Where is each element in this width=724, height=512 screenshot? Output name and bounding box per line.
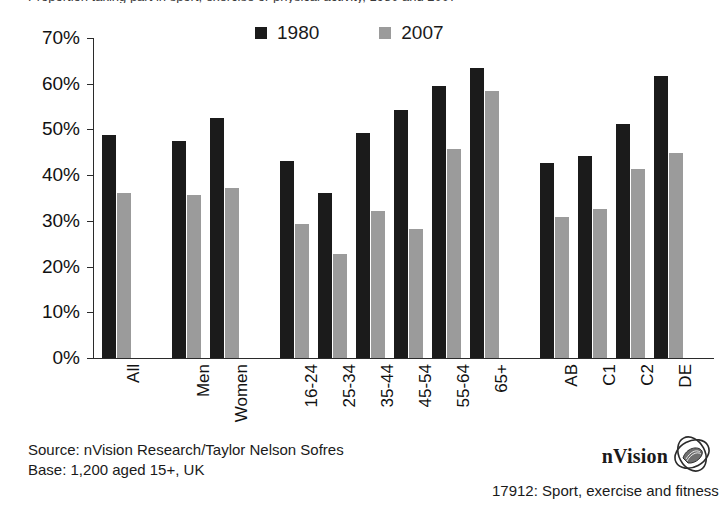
- base-note: Base: 1,200 aged 15+, UK: [28, 460, 344, 480]
- bar-group: [394, 38, 424, 358]
- y-tick-mark: [87, 358, 93, 359]
- x-tick-label: Women: [233, 364, 250, 422]
- bar-group: [616, 38, 646, 358]
- y-tick-label: 0%: [0, 348, 80, 367]
- bar: [578, 156, 592, 359]
- bar: [187, 195, 201, 358]
- y-tick-label: 70%: [0, 28, 80, 47]
- bar: [555, 217, 569, 358]
- bar: [318, 193, 332, 358]
- nvision-ellipse-logo-icon: [672, 434, 712, 478]
- x-tick-label: 65+: [493, 364, 510, 393]
- x-tick-label: 45-54: [417, 364, 434, 407]
- bar: [225, 188, 239, 358]
- bar-group: [318, 38, 348, 358]
- bar: [102, 135, 116, 358]
- source-note: Source: nVision Research/Taylor Nelson S…: [28, 440, 344, 460]
- y-tick-mark: [87, 84, 93, 85]
- bar-group: [356, 38, 386, 358]
- bar: [172, 141, 186, 358]
- bar-group: [540, 38, 570, 358]
- bar: [593, 209, 607, 358]
- x-tick-label: 55-64: [455, 364, 472, 407]
- bar-group: [578, 38, 608, 358]
- bar: [540, 163, 554, 358]
- bar-group: [280, 38, 310, 358]
- x-tick-label: 25-34: [341, 364, 358, 407]
- x-tick-label: All: [125, 364, 142, 383]
- bar-group: [432, 38, 462, 358]
- brand-name: nVision: [602, 445, 668, 468]
- bar: [470, 68, 484, 358]
- footer-notes: Source: nVision Research/Taylor Nelson S…: [28, 440, 344, 480]
- y-tick-label: 40%: [0, 165, 80, 184]
- bar: [616, 124, 630, 358]
- x-tick-label: AB: [563, 364, 580, 387]
- bar: [631, 169, 645, 358]
- bar: [210, 118, 224, 358]
- bar-group: [102, 38, 132, 358]
- bar-group: [172, 38, 202, 358]
- bar: [333, 254, 347, 358]
- brand-block: nVision 17912: Sport, exercise and fitne…: [492, 434, 712, 499]
- y-tick-mark: [87, 38, 93, 39]
- x-tick-label: C2: [639, 364, 656, 386]
- brand-caption: 17912: Sport, exercise and fitness: [492, 482, 712, 499]
- x-tick-label: 16-24: [303, 364, 320, 407]
- x-tick-label: C1: [601, 364, 618, 386]
- y-tick-label: 60%: [0, 74, 80, 93]
- y-tick-label: 10%: [0, 302, 80, 321]
- x-axis-line: [93, 358, 714, 359]
- bar: [409, 229, 423, 358]
- bar: [295, 224, 309, 358]
- bar-group: [210, 38, 240, 358]
- x-tick-label: DE: [677, 364, 694, 388]
- bar-group: [654, 38, 684, 358]
- bar: [447, 149, 461, 358]
- bar-group: [470, 38, 500, 358]
- x-tick-label: 35-44: [379, 364, 396, 407]
- bar: [394, 110, 408, 358]
- bar: [432, 86, 446, 358]
- bar: [485, 91, 499, 358]
- bar: [371, 211, 385, 358]
- y-tick-mark: [87, 221, 93, 222]
- bar: [280, 161, 294, 358]
- y-tick-mark: [87, 312, 93, 313]
- plot-area: 0%10%20%30%40%50%60%70%: [94, 38, 714, 358]
- bar: [669, 153, 683, 358]
- bar: [356, 133, 370, 358]
- bar: [654, 76, 668, 359]
- y-tick-label: 50%: [0, 119, 80, 138]
- y-tick-mark: [87, 175, 93, 176]
- bar: [117, 193, 131, 358]
- y-tick-mark: [87, 267, 93, 268]
- bar-chart: 19802007 0%10%20%30%40%50%60%70% AllMenW…: [0, 0, 724, 430]
- x-tick-label: Men: [195, 364, 212, 397]
- brand-mark: nVision: [492, 434, 712, 478]
- y-tick-label: 30%: [0, 211, 80, 230]
- y-tick-label: 20%: [0, 257, 80, 276]
- y-tick-mark: [87, 129, 93, 130]
